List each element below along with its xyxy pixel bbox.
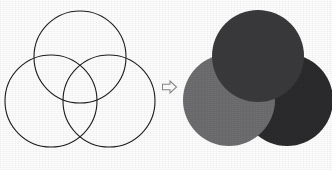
arrow-container: [160, 78, 180, 96]
outlined-venn-svg: [0, 0, 160, 170]
outlined-circle-group: [5, 11, 155, 147]
rightwards-arrow-icon: [160, 78, 180, 96]
outlined-venn-panel: [0, 0, 160, 170]
filled-venn-svg: [180, 0, 332, 170]
outline-circle-bottom-right: [63, 55, 155, 147]
outline-circle-bottom-left: [5, 55, 97, 147]
filled-circle-top: [212, 10, 304, 102]
figure-canvas: [0, 0, 332, 170]
filled-venn-panel: [180, 0, 332, 170]
outline-circle-top: [34, 11, 126, 103]
filled-circle-group: [183, 10, 332, 146]
